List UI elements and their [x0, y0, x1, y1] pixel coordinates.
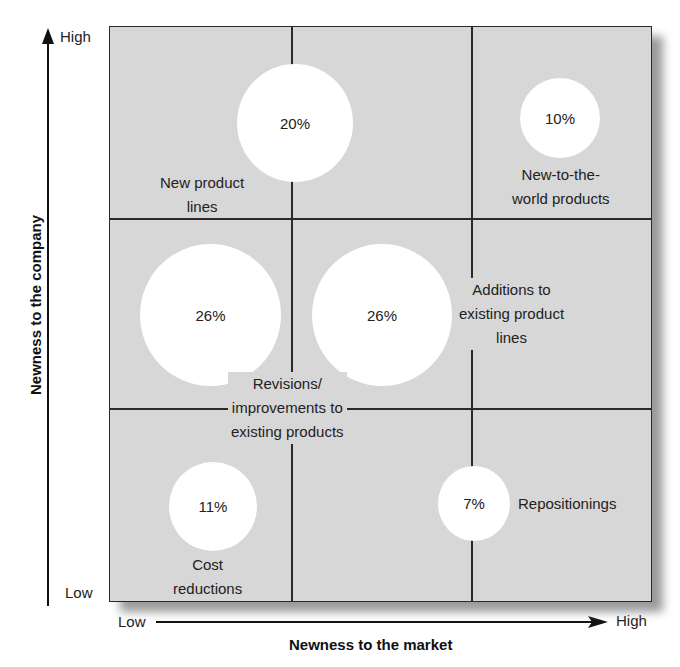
label-new-to-the-world: New-to-the- world products [509, 163, 613, 211]
y-axis-high-label: High [60, 28, 91, 45]
x-axis-high-label: High [616, 612, 647, 629]
label-additions: Additions to existing product lines [456, 278, 567, 350]
bubble-cost-reductions: 11% [169, 462, 257, 551]
label-cost-reductions: Cost reductions [170, 553, 245, 601]
x-axis-arrow-icon [156, 614, 608, 630]
bubble-new-product-lines: 20% [237, 64, 353, 182]
y-axis-title: Newness to the company [27, 215, 44, 395]
bubble-revisions: 26% [140, 244, 281, 386]
label-repositionings: Repositionings [515, 492, 619, 516]
label-revisions: Revisions/ improvements to existing prod… [228, 372, 347, 444]
y-axis-low-label: Low [65, 584, 93, 601]
bubble-new-to-the-world: 10% [520, 78, 600, 158]
bubble-repositionings: 7% [438, 466, 510, 541]
bubble-additions: 26% [312, 244, 452, 386]
grid-line-horizontal-2 [110, 408, 651, 410]
x-axis-title: Newness to the market [289, 636, 452, 653]
label-new-product-lines: New product lines [157, 171, 247, 219]
x-axis-low-label: Low [118, 613, 146, 630]
